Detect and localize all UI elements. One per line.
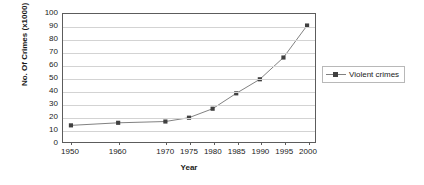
x-axis-tick-label: 1985 [228,147,246,156]
gridline [63,27,315,28]
x-axis-tick-mark [166,142,167,145]
y-axis-tick-label: 0 [34,139,58,147]
x-axis-tick-mark [285,142,286,145]
x-axis-title: Year [62,163,316,172]
series-layer [63,14,315,142]
data-point-marker [211,107,215,111]
x-axis-tick-mark [309,142,310,145]
x-axis-tick-label: 1995 [275,147,293,156]
x-axis-tick-label: 1950 [61,147,79,156]
plot-area [62,13,316,143]
y-axis-tick-label: 100 [34,9,58,17]
gridline [63,53,315,54]
x-axis-tick-labels: 195019601970197519801985199019952000 [62,147,316,159]
x-axis-tick-mark [71,142,72,145]
x-axis-tick-label: 1980 [204,147,222,156]
x-axis-tick-mark [214,142,215,145]
gridline [63,105,315,106]
y-axis-title: No. Of Crimes (x1000) [20,0,29,105]
gridline [63,79,315,80]
x-axis-tick-label: 1970 [156,147,174,156]
y-axis-tick-label: 80 [34,35,58,43]
data-point-marker [163,119,167,123]
x-axis-tick-mark [190,142,191,145]
x-axis-tick-label: 1975 [180,147,198,156]
y-axis-tick-labels: 0102030405060708090100 [34,13,58,143]
y-axis-tick-label: 60 [34,61,58,69]
y-axis-tick-label: 10 [34,126,58,134]
y-axis-tick-label: 30 [34,100,58,108]
y-axis-tick-label: 40 [34,87,58,95]
x-axis-tick-label: 1990 [251,147,269,156]
x-axis-tick-label: 2000 [299,147,317,156]
gridline [63,66,315,67]
legend-marker-icon [326,70,346,79]
legend: Violent crimes [322,66,405,83]
gridline [63,131,315,132]
data-point-marker [281,55,285,59]
gridline [63,92,315,93]
gridline [63,118,315,119]
x-axis-tick-mark [119,142,120,145]
legend-item-label: Violent crimes [349,70,399,79]
y-axis-tick-label: 20 [34,113,58,121]
line-chart: No. Of Crimes (x1000) 010203040506070809… [0,0,424,185]
y-axis-tick-label: 50 [34,74,58,82]
x-axis-tick-mark [261,142,262,145]
y-axis-tick-label: 90 [34,22,58,30]
data-point-marker [116,121,120,125]
data-point-marker [69,123,73,127]
x-axis-tick-mark [238,142,239,145]
x-axis-tick-label: 1960 [109,147,127,156]
y-axis-tick-label: 70 [34,48,58,56]
gridline [63,40,315,41]
